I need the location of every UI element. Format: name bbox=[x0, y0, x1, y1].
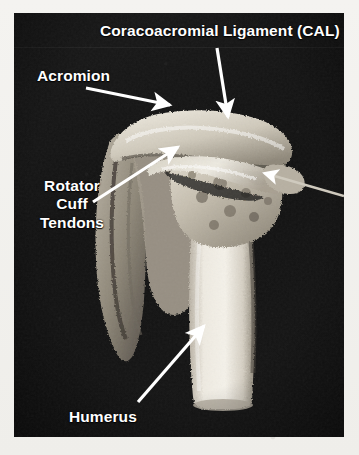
label-layer: Coracoacromial Ligament (CAL) Acromion R… bbox=[14, 13, 344, 437]
label-rotator-line-2: Cuff bbox=[20, 195, 124, 213]
label-rotator-line-3: Tendons bbox=[20, 214, 124, 232]
label-coracoacromial-ligament: Coracoacromial Ligament (CAL) bbox=[100, 22, 340, 40]
label-acromion: Acromion bbox=[37, 67, 110, 85]
label-rotator-cuff-tendons: Rotator Cuff Tendons bbox=[20, 177, 124, 232]
anatomical-photo-panel: Coracoacromial Ligament (CAL) Acromion R… bbox=[14, 13, 344, 437]
figure-root: Coracoacromial Ligament (CAL) Acromion R… bbox=[0, 0, 359, 455]
label-rotator-line-1: Rotator bbox=[20, 177, 124, 195]
label-humerus: Humerus bbox=[69, 408, 137, 426]
